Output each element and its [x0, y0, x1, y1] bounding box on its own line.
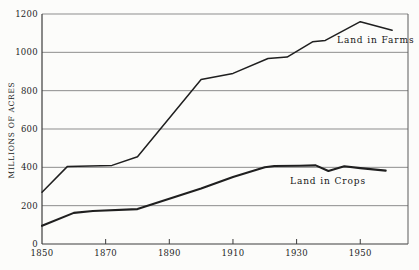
line-chart: MILLIONS OF ACRES Land in Farms Land in … [0, 0, 419, 270]
x-tick-label-1850: 1850 [31, 248, 54, 258]
x-tick-label-1910: 1910 [222, 248, 245, 258]
y-tick-label-800: 800 [6, 86, 38, 96]
series-label-land-in-crops: Land in Crops [290, 176, 366, 186]
y-tick-label-200: 200 [6, 201, 38, 211]
series-line-land-in-crops [42, 165, 386, 225]
x-tick-label-1930: 1930 [285, 248, 308, 258]
y-tick-label-400: 400 [6, 162, 38, 172]
x-tick-label-1950: 1950 [349, 248, 372, 258]
x-tick-label-1890: 1890 [158, 248, 181, 258]
y-tick-label-1000: 1000 [6, 47, 38, 57]
x-tick-label-1870: 1870 [94, 248, 117, 258]
series-label-land-in-farms: Land in Farms [337, 35, 414, 45]
y-tick-label-1200: 1200 [6, 9, 38, 19]
y-tick-label-0: 0 [6, 239, 38, 249]
y-tick-label-600: 600 [6, 124, 38, 134]
